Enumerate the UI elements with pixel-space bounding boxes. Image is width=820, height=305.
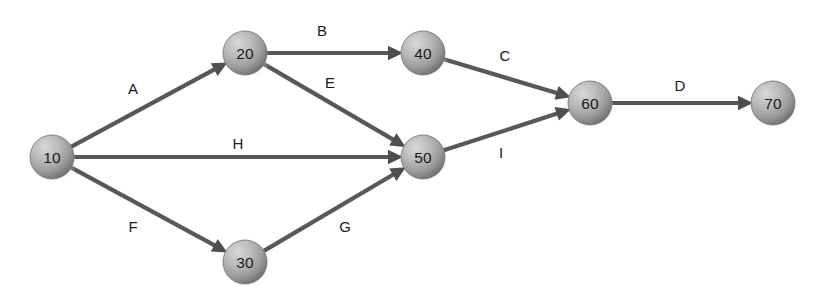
edge-label-text: D xyxy=(675,77,686,94)
edge-line xyxy=(70,68,216,147)
node-label-text: 50 xyxy=(414,149,432,166)
edge-line xyxy=(263,173,395,251)
node-60[interactable]: 60 xyxy=(568,81,616,127)
node-label-text: 20 xyxy=(236,45,254,62)
node-label-text: 40 xyxy=(414,45,432,62)
network-diagram-canvas: 10203040506070 ABEHFGCID xyxy=(0,0,820,305)
node-10[interactable]: 10 xyxy=(30,135,78,181)
edge-label-f: F xyxy=(128,218,137,235)
node-label-text: 70 xyxy=(764,95,782,112)
node-label-text: 30 xyxy=(236,254,254,271)
edge-c xyxy=(443,59,559,94)
edge-label-text: G xyxy=(339,218,351,235)
edge-label-text: C xyxy=(500,47,511,64)
edge-label-e: E xyxy=(325,74,335,91)
edge-label-text: A xyxy=(128,80,138,97)
arrowheads-layer xyxy=(211,46,753,253)
node-40[interactable]: 40 xyxy=(401,31,449,77)
edge-label-text: F xyxy=(128,218,137,235)
node-20[interactable]: 20 xyxy=(223,31,271,77)
edge-label-text: E xyxy=(325,74,335,91)
edge-label-c: C xyxy=(500,47,511,64)
edge-label-d: D xyxy=(675,77,686,94)
node-50[interactable]: 50 xyxy=(401,135,449,181)
edge-line xyxy=(70,167,216,247)
network-diagram: 10203040506070 ABEHFGCID xyxy=(0,0,820,305)
edge-label-text: H xyxy=(233,135,244,152)
edge-label-text: B xyxy=(317,22,327,39)
edge-f xyxy=(70,167,216,247)
edge-label-a: A xyxy=(128,80,138,97)
node-label-text: 60 xyxy=(581,95,599,112)
edge-label-h: H xyxy=(233,135,244,152)
node-label-text: 10 xyxy=(43,149,61,166)
edge-line xyxy=(443,59,559,94)
edge-g xyxy=(263,173,395,251)
node-70[interactable]: 70 xyxy=(751,81,799,127)
edge-label-i: I xyxy=(499,144,503,161)
edge-label-g: G xyxy=(339,218,351,235)
edge-label-b: B xyxy=(317,22,327,39)
node-30[interactable]: 30 xyxy=(223,240,271,286)
edge-a xyxy=(70,68,216,147)
edge-label-text: I xyxy=(499,144,503,161)
